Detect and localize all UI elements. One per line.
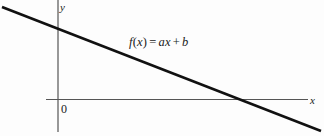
slope-term: ax (158, 35, 170, 49)
function-line (2, 7, 321, 131)
function-equation-label: f(x)=ax+b (129, 36, 188, 49)
origin-label: 0 (61, 103, 67, 115)
equals-sign: = (147, 35, 158, 49)
intercept-term: b (182, 35, 188, 49)
plus-sign: + (171, 35, 182, 49)
y-axis-label: y (60, 2, 65, 13)
x-axis-label: x (310, 95, 315, 106)
linear-function-figure: y x 0 f(x)=ax+b (0, 0, 324, 136)
graph-canvas (0, 0, 324, 136)
